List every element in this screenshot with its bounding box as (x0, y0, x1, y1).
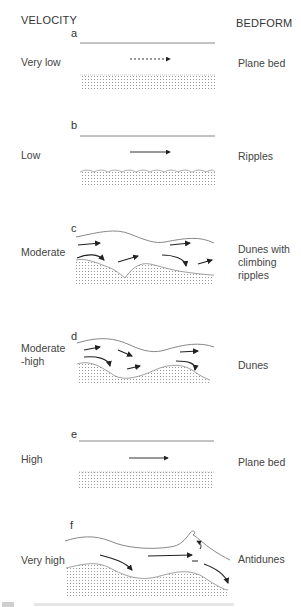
bedform-plane-bed-e: Plane bed (238, 456, 285, 469)
panel-f-diagram (65, 531, 230, 598)
caption-marker (2, 602, 14, 607)
bedform-dunes-climbing-ripples: Dunes with climbing ripples (238, 243, 290, 282)
panel-d-diagram (77, 339, 214, 383)
velocity-moderate: Moderate (21, 246, 65, 259)
velocity-very-low: Very low (21, 56, 61, 69)
bedform-ripples: Ripples (238, 150, 273, 163)
bedform-dunes: Dunes (238, 359, 268, 372)
panel-e-diagram (79, 441, 214, 489)
velocity-low: Low (21, 149, 40, 162)
bedform-header: BEDFORM (236, 17, 292, 29)
panel-b-diagram (80, 136, 215, 185)
bedform-antidunes: Antidunes (238, 553, 285, 566)
panel-d-label: d (71, 330, 77, 342)
velocity-header: VELOCITY (21, 14, 77, 26)
panel-c-diagram (76, 231, 214, 285)
panel-a-label: a (71, 27, 77, 39)
velocity-very-high: Very high (21, 554, 65, 567)
caption-cutoff (34, 603, 234, 606)
velocity-high: High (21, 453, 43, 466)
panel-e-label: e (71, 428, 77, 440)
bedform-diagram (0, 0, 301, 607)
panel-f-label: f (70, 519, 73, 531)
velocity-moderate-high: Moderate -high (21, 342, 65, 368)
panel-b-label: b (71, 119, 77, 131)
panel-a-diagram (80, 43, 215, 91)
bedform-plane-bed-a: Plane bed (238, 57, 285, 70)
panel-c-label: c (71, 222, 77, 234)
